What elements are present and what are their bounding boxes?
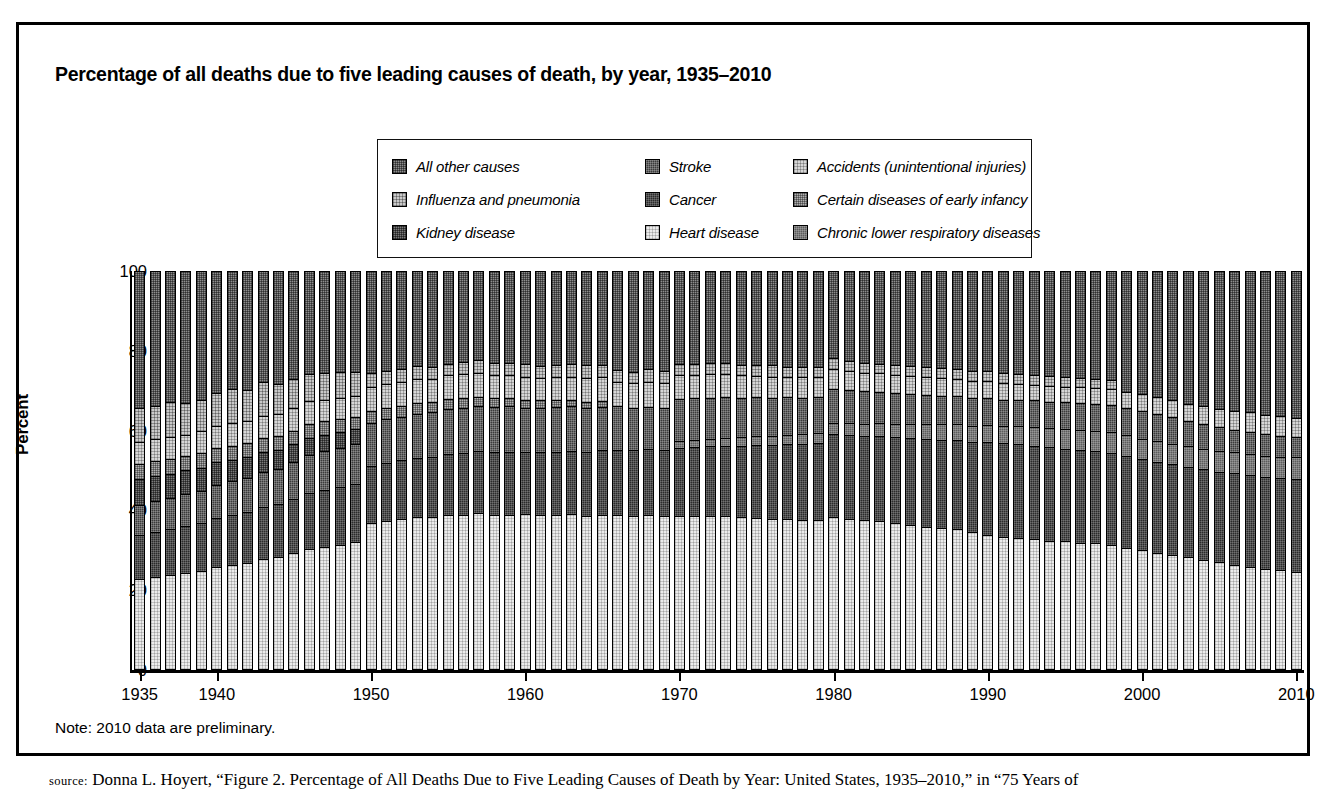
stacked-bar[interactable]: [689, 271, 700, 670]
stacked-bar[interactable]: [674, 271, 685, 670]
bar-segment-influenza: [567, 365, 576, 378]
bar-segment-infancy: [490, 399, 499, 408]
stacked-bar[interactable]: [874, 271, 885, 670]
stacked-bar[interactable]: [597, 271, 608, 670]
stacked-bar[interactable]: [273, 271, 284, 670]
stacked-bar[interactable]: [350, 271, 361, 670]
bar-segment-allother: [1230, 272, 1239, 412]
stacked-bar[interactable]: [767, 271, 778, 670]
stacked-bar[interactable]: [288, 271, 299, 670]
stacked-bar[interactable]: [150, 271, 161, 670]
bar-segment-infancy: [413, 404, 422, 415]
stacked-bar[interactable]: [1029, 271, 1040, 670]
stacked-bar[interactable]: [936, 271, 947, 670]
stacked-bar[interactable]: [1121, 271, 1132, 670]
stacked-bar[interactable]: [797, 271, 808, 670]
bar-segment-allother: [906, 272, 915, 367]
stacked-bar[interactable]: [396, 271, 407, 670]
stacked-bar[interactable]: [443, 271, 454, 670]
stacked-bar[interactable]: [242, 271, 253, 670]
stacked-bar[interactable]: [890, 271, 901, 670]
stacked-bar[interactable]: [1245, 271, 1256, 670]
bar-segment-influenza: [413, 367, 422, 380]
stacked-bar[interactable]: [551, 271, 562, 670]
stacked-bar[interactable]: [458, 271, 469, 670]
stacked-bar[interactable]: [381, 271, 392, 670]
bar-segment-cancer: [875, 437, 884, 522]
stacked-bar[interactable]: [612, 271, 623, 670]
stacked-bar[interactable]: [165, 271, 176, 670]
bar-segment-heart: [1030, 540, 1039, 669]
bar-segment-infancy: [397, 407, 406, 418]
bar-segment-cancer: [367, 467, 376, 525]
bar-segment-accidents: [690, 376, 699, 399]
stacked-bar[interactable]: [659, 271, 670, 670]
stacked-bar[interactable]: [196, 271, 207, 670]
stacked-bar[interactable]: [1198, 271, 1209, 670]
stacked-bar[interactable]: [581, 271, 592, 670]
stacked-bar[interactable]: [535, 271, 546, 670]
stacked-bar[interactable]: [304, 271, 315, 670]
stacked-bar[interactable]: [905, 271, 916, 670]
stacked-bar[interactable]: [1152, 271, 1163, 670]
stacked-bar[interactable]: [828, 271, 839, 670]
legend-item-kidney: Kidney disease: [392, 224, 645, 241]
bar-segment-influenza: [737, 366, 746, 377]
bar-segment-stroke: [1199, 425, 1208, 450]
stacked-bar[interactable]: [1291, 271, 1302, 670]
stacked-bar[interactable]: [1183, 271, 1194, 670]
stacked-bar[interactable]: [134, 271, 145, 670]
stacked-bar[interactable]: [258, 271, 269, 670]
bar-segment-heart: [490, 516, 499, 669]
bar-segment-influenza: [968, 372, 977, 382]
stacked-bar[interactable]: [227, 271, 238, 670]
stacked-bar[interactable]: [1106, 271, 1117, 670]
bar-segment-kidney: [336, 433, 345, 449]
stacked-bar[interactable]: [1075, 271, 1086, 670]
stacked-bar[interactable]: [520, 271, 531, 670]
stacked-bar[interactable]: [998, 271, 1009, 670]
stacked-bar[interactable]: [921, 271, 932, 670]
stacked-bar[interactable]: [1260, 271, 1271, 670]
stacked-bar[interactable]: [180, 271, 191, 670]
stacked-bar[interactable]: [813, 271, 824, 670]
stacked-bar[interactable]: [211, 271, 222, 670]
bar-slot: [440, 271, 455, 670]
stacked-bar[interactable]: [412, 271, 423, 670]
stacked-bar[interactable]: [782, 271, 793, 670]
stacked-bar[interactable]: [859, 271, 870, 670]
stacked-bar[interactable]: [736, 271, 747, 670]
stacked-bar[interactable]: [643, 271, 654, 670]
stacked-bar[interactable]: [844, 271, 855, 670]
bar-segment-cancer: [983, 443, 992, 536]
stacked-bar[interactable]: [1275, 271, 1286, 670]
stacked-bar[interactable]: [720, 271, 731, 670]
bar-segment-influenza: [490, 364, 499, 377]
stacked-bar[interactable]: [1044, 271, 1055, 670]
stacked-bar[interactable]: [1214, 271, 1225, 670]
stacked-bar[interactable]: [366, 271, 377, 670]
stacked-bar[interactable]: [319, 271, 330, 670]
stacked-bar[interactable]: [473, 271, 484, 670]
stacked-bar[interactable]: [1229, 271, 1240, 670]
stacked-bar[interactable]: [504, 271, 515, 670]
stacked-bar[interactable]: [1090, 271, 1101, 670]
stacked-bar[interactable]: [628, 271, 639, 670]
stacked-bar[interactable]: [751, 271, 762, 670]
bar-segment-heart: [829, 518, 838, 669]
stacked-bar[interactable]: [705, 271, 716, 670]
stacked-bar[interactable]: [489, 271, 500, 670]
stacked-bar[interactable]: [967, 271, 978, 670]
stacked-bar[interactable]: [1060, 271, 1071, 670]
stacked-bar[interactable]: [1137, 271, 1148, 670]
bar-slot: [733, 271, 748, 670]
stacked-bar[interactable]: [1167, 271, 1178, 670]
stacked-bar[interactable]: [566, 271, 577, 670]
stacked-bar[interactable]: [952, 271, 963, 670]
stacked-bar[interactable]: [982, 271, 993, 670]
bar-segment-infancy: [351, 418, 360, 430]
bar-segment-stroke: [1122, 409, 1131, 436]
stacked-bar[interactable]: [1013, 271, 1024, 670]
stacked-bar[interactable]: [335, 271, 346, 670]
stacked-bar[interactable]: [427, 271, 438, 670]
